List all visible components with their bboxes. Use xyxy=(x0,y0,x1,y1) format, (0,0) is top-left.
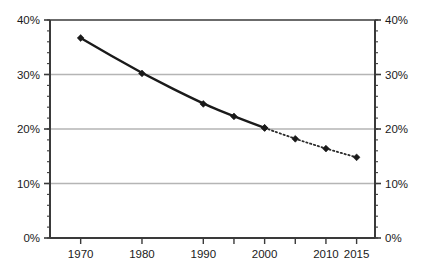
x-axis-tick-label: 1990 xyxy=(191,248,217,260)
y-axis-left-tick-label: 30% xyxy=(17,69,40,81)
x-axis-tick-label: 1970 xyxy=(68,248,94,260)
y-axis-right-tick-label: 40% xyxy=(385,14,408,26)
chart-canvas: 40%30%20%10%0% 40%30%20%10%0% 1970198019… xyxy=(0,0,435,272)
y-axis-left-tick-label: 10% xyxy=(17,178,40,190)
x-axis-tick-label: 2000 xyxy=(252,248,278,260)
line-chart: 40%30%20%10%0% 40%30%20%10%0% 1970198019… xyxy=(0,0,435,272)
y-axis-left-tick-label: 40% xyxy=(17,14,40,26)
y-axis-right-tick-label: 30% xyxy=(385,69,408,81)
chart-background xyxy=(0,0,435,272)
x-axis-tick-label: 2010 xyxy=(313,248,339,260)
y-axis-right-tick-label: 0% xyxy=(385,232,402,244)
x-axis-tick-label: 2015 xyxy=(344,248,370,260)
y-axis-left-tick-label: 0% xyxy=(23,232,40,244)
y-axis-left-tick-label: 20% xyxy=(17,123,40,135)
y-axis-right-tick-label: 20% xyxy=(385,123,408,135)
y-axis-right-tick-label: 10% xyxy=(385,178,408,190)
x-axis-tick-label: 1980 xyxy=(129,248,155,260)
